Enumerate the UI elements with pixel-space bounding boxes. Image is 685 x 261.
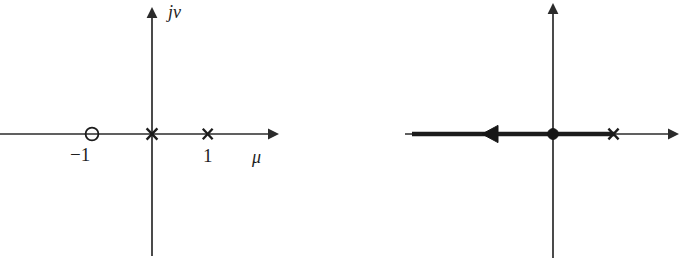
real-axis-arrowhead [268,129,279,140]
breakaway-point-marker [548,129,559,140]
tick-label-minus-one: −1 [70,145,90,164]
pole-zero-axes-svg [0,0,343,261]
tick-label-plus-one: 1 [203,146,213,165]
pole-zero-and-root-locus-figure: −1 1 jν μ K = 1 1 jν μ [0,0,685,261]
root-locus-axes-svg [343,0,685,261]
imaginary-axis-arrowhead [147,7,158,18]
imaginary-axis-label: jν [168,3,181,21]
open-loop-pole-zero-plot: −1 1 jν μ [0,0,343,261]
root-locus-plot: K = 1 1 jν μ [343,0,685,261]
real-axis-arrowhead [668,129,679,140]
real-axis-label: μ [252,148,261,166]
locus-direction-arrowhead [482,125,498,142]
imaginary-axis-arrowhead [548,3,559,14]
